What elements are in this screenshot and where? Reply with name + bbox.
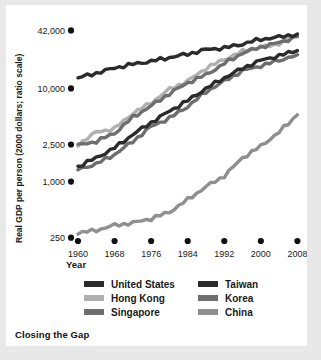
y-tick-dot xyxy=(68,141,74,147)
legend-label: Korea xyxy=(225,293,253,304)
legend-swatch-icon xyxy=(84,281,104,287)
chart-area: Real GDP per person (2000 dollars; ratio… xyxy=(6,5,307,276)
y-tick-label: 10,000 xyxy=(37,84,65,94)
x-tick-dot xyxy=(294,238,300,244)
legend-item[interactable]: China xyxy=(198,305,258,319)
x-tick-label: 1992 xyxy=(214,249,234,259)
legend-label: United States xyxy=(111,279,175,290)
y-axis-ticks: 2501,0002,50010,00042,000 xyxy=(37,26,74,243)
y-tick-dot xyxy=(68,27,74,33)
y-tick-label: 250 xyxy=(50,233,65,243)
legend-label: Hong Kong xyxy=(111,293,165,304)
y-tick-label: 2,500 xyxy=(42,140,65,150)
series-line-hong-kong xyxy=(78,36,297,147)
legend-column-left: United StatesHong KongSingapore xyxy=(84,277,175,319)
y-tick-dot xyxy=(68,85,74,91)
x-tick-dot xyxy=(221,238,227,244)
series-line-korea xyxy=(78,55,297,170)
x-tick-label: 1984 xyxy=(178,249,198,259)
x-tick-label: 1976 xyxy=(141,249,161,259)
legend-label: Taiwan xyxy=(225,279,258,290)
x-tick-label: 1968 xyxy=(105,249,125,259)
legend-item[interactable]: Singapore xyxy=(84,305,175,319)
y-tick-label: 42,000 xyxy=(37,26,65,36)
legend-swatch-icon xyxy=(198,295,218,301)
y-tick-label: 1,000 xyxy=(42,177,65,187)
figure-panel: Real GDP per person (2000 dollars; ratio… xyxy=(6,5,307,346)
x-tick-dot xyxy=(185,238,191,244)
x-tick-dot xyxy=(148,238,154,244)
x-axis-ticks: 1960196819761984199220002008 xyxy=(68,238,307,259)
legend-label: Singapore xyxy=(111,307,160,318)
legend-swatch-icon xyxy=(198,309,218,315)
legend-label: China xyxy=(225,307,253,318)
gdp-line-chart: Real GDP per person (2000 dollars; ratio… xyxy=(6,5,307,276)
x-tick-dot xyxy=(75,238,81,244)
legend-item[interactable]: Taiwan xyxy=(198,277,258,291)
x-tick-dot xyxy=(258,238,264,244)
x-tick-label: 2008 xyxy=(287,249,307,259)
chart-legend: United StatesHong KongSingapore TaiwanKo… xyxy=(6,277,307,325)
legend-swatch-icon xyxy=(198,281,218,287)
series-line-singapore xyxy=(78,37,297,145)
series-line-united-states xyxy=(78,34,297,78)
x-tick-label: 2000 xyxy=(251,249,271,259)
y-tick-dot xyxy=(68,235,74,241)
legend-column-right: TaiwanKoreaChina xyxy=(198,277,258,319)
legend-item[interactable]: United States xyxy=(84,277,175,291)
figure-caption: Closing the Gap xyxy=(15,329,89,340)
legend-swatch-icon xyxy=(84,309,104,315)
x-axis-label: Year xyxy=(66,259,86,270)
x-tick-label: 1960 xyxy=(68,249,88,259)
y-axis-label: Real GDP per person (2000 dollars; ratio… xyxy=(14,54,24,243)
series-lines xyxy=(78,34,297,234)
legend-swatch-icon xyxy=(84,295,104,301)
legend-item[interactable]: Korea xyxy=(198,291,258,305)
legend-item[interactable]: Hong Kong xyxy=(84,291,175,305)
x-tick-dot xyxy=(111,238,117,244)
y-tick-dot xyxy=(68,178,74,184)
